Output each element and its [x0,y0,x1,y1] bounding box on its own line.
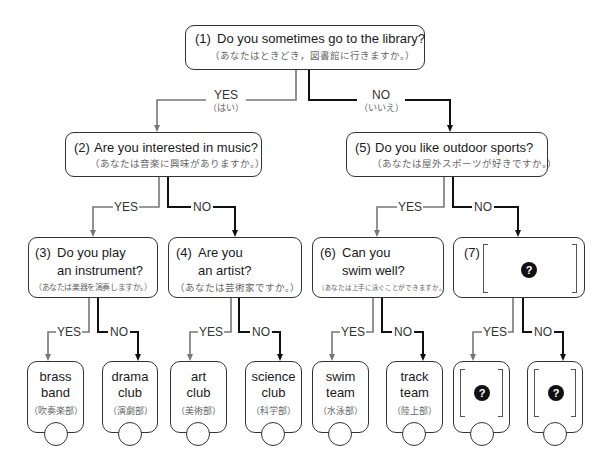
left-bracket [534,369,539,417]
answer-circle [328,422,352,446]
result-line-1: swim [313,369,368,385]
left-bracket [483,244,488,293]
question-4-translation: （あなたは芸術家ですか。） [175,282,300,294]
result-line-1: science [246,369,301,385]
question-3-line-1: Do you play [57,245,126,261]
question-1-number: (1) [195,31,211,47]
answer-circle [402,422,426,446]
question-box-2: (2) Are you interested in music? （あなたは音楽… [65,132,262,177]
result-translation: （水泳部） [313,405,368,417]
no-label: NO [372,88,390,102]
branch-label-q1-no: NO （いいえ） [357,88,405,114]
question-3-translation: （あなたは楽器を演奏しますか。） [34,282,152,294]
question-box-5: (5) Do you like outdoor sports? （あなたは屋外ス… [346,132,548,177]
result-line-2: club [103,385,157,401]
question-5-text: Do you like outdoor sports? [375,140,533,156]
yes-label: YES [214,88,238,102]
result-translation: （吹奏楽部） [28,405,83,417]
question-5-translation: （あなたは屋外スポーツが好きですか。） [372,158,557,170]
yes-label-translation: （はい） [206,102,246,114]
result-translation: （演劇部） [103,405,157,417]
branch-label-q4-no: NO [250,325,272,339]
result-line-2: team [313,385,368,401]
result-translation: （陸上部） [387,405,442,417]
result-line-2: club [171,385,226,401]
branch-label-q7-no: NO [532,325,554,339]
no-label-translation: （いいえ） [357,102,405,114]
answer-circle [44,422,68,446]
branch-label-q2-no: NO [191,200,213,214]
branch-label-q2-yes: YES [113,200,139,214]
question-6-line-1: Can you [342,245,390,261]
answer-circle [261,422,285,446]
question-6-line-2: swim well? [342,263,405,279]
question-4-line-1: Are you [198,245,243,261]
question-2-number: (2) [74,140,90,156]
result-line-2: team [387,385,442,401]
question-2-text: Are you interested in music? [94,140,258,156]
answer-circle [118,422,142,446]
result-line-2: band [28,385,83,401]
connector-lines [0,0,614,469]
question-mark-icon: ? [474,385,490,401]
branch-label-q3-yes: YES [56,325,82,339]
question-mark-icon: ? [521,262,537,278]
question-box-6: (6) Can you swim well? （あなたは上手に泳ぐことができます… [312,237,444,298]
result-line-2: club [246,385,301,401]
result-line-1: drama [103,369,157,385]
question-1-translation: （あなたはときどき，図書館に行きますか。） [210,50,415,62]
question-box-7: (7) ? [453,237,585,298]
branch-label-q6-no: NO [392,325,414,339]
question-3-number: (3) [35,245,51,261]
branch-label-q5-yes: YES [397,200,423,214]
branch-label-q1-yes: YES （はい） [206,88,246,114]
question-4-number: (4) [176,245,192,261]
right-bracket [498,369,503,417]
question-mark-icon: ? [548,385,564,401]
branch-label-q3-no: NO [108,325,130,339]
question-6-translation: （あなたは上手に泳ぐことができますか。） [318,282,449,294]
branch-label-q5-no: NO [472,200,494,214]
result-translation: （美術部） [171,405,226,417]
answer-circle [186,422,210,446]
question-5-number: (5) [355,140,371,156]
branch-label-q4-yes: YES [198,325,224,339]
branch-label-q7-yes: YES [482,325,508,339]
result-line-1: art [171,369,226,385]
question-7-number: (7) [464,245,480,261]
result-line-1: track [387,369,442,385]
result-line-1: brass [28,369,83,385]
question-1-text: Do you sometimes go to the library? [217,31,425,47]
answer-circle [470,422,494,446]
question-4-line-2: an artist? [198,263,251,279]
question-3-line-2: an instrument? [57,263,143,279]
flowchart: (1) Do you sometimes go to the library? … [0,0,614,469]
question-box-3: (3) Do you play an instrument? （あなたは楽器を演… [28,237,158,298]
right-bracket [572,244,577,293]
left-bracket [460,369,465,417]
question-6-number: (6) [320,245,336,261]
result-translation: （科学部） [246,405,301,417]
branch-label-q6-yes: YES [340,325,366,339]
question-box-4: (4) Are you an artist? （あなたは芸術家ですか。） [168,237,302,298]
question-box-1: (1) Do you sometimes go to the library? … [185,25,425,70]
answer-circle [543,422,567,446]
question-2-translation: （あなたは音楽に興味がありますか。） [90,158,265,170]
right-bracket [571,369,576,417]
